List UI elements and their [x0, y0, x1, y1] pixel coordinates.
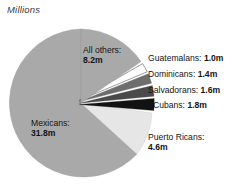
pie-label-dominicans: Dominicans: 1.4m — [148, 69, 217, 79]
pie-label-cubans-value: 1.8m — [187, 100, 207, 110]
pie-label-puerto-ricans-value: 4.6m — [148, 142, 168, 152]
pie-label-guatemalans: Guatemalans: 1.0m — [148, 53, 224, 63]
pie-label-dominicans-value: 1.4m — [198, 69, 218, 79]
pie-label-all-others: All others: 8.2m — [83, 45, 121, 66]
pie-label-salvadorans: Salvadorans: 1.6m — [148, 85, 220, 95]
pie-label-mexicans: Mexicans: 31.8m — [31, 118, 70, 139]
pie-label-puerto-ricans-name: Puerto Ricans: — [148, 132, 204, 142]
pie-label-guatemalans-name: Guatemalans: — [148, 53, 202, 63]
pie-label-dominicans-name: Dominicans: — [148, 69, 195, 79]
pie-label-all-others-name: All others: — [83, 45, 121, 55]
pie-label-guatemalans-value: 1.0m — [204, 53, 224, 63]
pie-label-all-others-value: 8.2m — [83, 55, 103, 65]
pie-label-cubans: Cubans: 1.8m — [153, 100, 207, 110]
pie-label-salvadorans-value: 1.6m — [201, 85, 221, 95]
pie-chart-figure: Millions All others: 8.2m Mexicans: 31.8… — [0, 0, 230, 189]
pie-label-mexicans-name: Mexicans: — [31, 118, 70, 128]
pie-label-cubans-name: Cubans: — [153, 100, 185, 110]
pie-label-puerto-ricans: Puerto Ricans: 4.6m — [148, 132, 204, 153]
pie-label-mexicans-value: 31.8m — [31, 128, 55, 138]
pie-label-salvadorans-name: Salvadorans: — [148, 85, 198, 95]
